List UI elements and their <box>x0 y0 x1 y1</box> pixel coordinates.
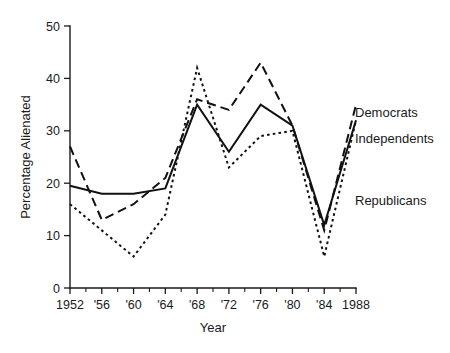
series-label-independents: Independents <box>355 131 434 146</box>
x-tick-label: '72 <box>221 298 237 312</box>
y-axis-title: Percentage Alienated <box>18 95 33 219</box>
y-tick-label: 0 <box>53 282 60 296</box>
x-tick-label: '80 <box>284 298 300 312</box>
x-tick-label: 1988 <box>342 298 370 312</box>
x-tick-label: 1952 <box>56 298 84 312</box>
x-axis-title: Year <box>200 320 227 335</box>
y-axis-tick-labels: 01020304050 <box>46 20 60 296</box>
series-line-democrats <box>70 63 356 231</box>
y-tick-label: 10 <box>46 229 60 243</box>
series-group <box>70 63 356 257</box>
series-line-republicans <box>70 68 356 257</box>
y-tick-label: 20 <box>46 177 60 191</box>
y-tick-label: 30 <box>46 124 60 138</box>
y-axis-ticks <box>64 26 70 288</box>
chart-svg: 01020304050 1952'56'60'64'68'72'76'80'84… <box>0 0 450 353</box>
x-tick-label: '64 <box>157 298 173 312</box>
alienation-line-chart: 01020304050 1952'56'60'64'68'72'76'80'84… <box>0 0 450 353</box>
y-tick-label: 50 <box>46 20 60 34</box>
x-tick-label: '76 <box>253 298 269 312</box>
x-tick-label: '68 <box>189 298 205 312</box>
y-tick-label: 40 <box>46 72 60 86</box>
x-axis-tick-labels: 1952'56'60'64'68'72'76'80'841988 <box>56 298 370 312</box>
x-tick-label: '84 <box>316 298 332 312</box>
series-label-republicans: Republicans <box>355 193 427 208</box>
series-label-democrats: Democrats <box>355 105 418 120</box>
series-line-independents <box>70 105 356 226</box>
x-tick-label: '56 <box>94 298 110 312</box>
x-tick-label: '60 <box>125 298 141 312</box>
